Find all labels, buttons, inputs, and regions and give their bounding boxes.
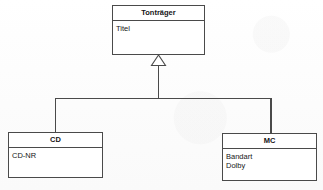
attribute-compartment-mc: Bandart Dolby <box>223 149 316 180</box>
attribute-item: Titel <box>116 24 204 33</box>
hollow-triangle-arrowhead <box>152 55 166 66</box>
attribute-item: CD-NR <box>12 151 102 160</box>
attribute-item: Bandart <box>226 152 316 161</box>
attribute-item: Dolby <box>226 161 316 170</box>
class-box-mc[interactable]: MC Bandart Dolby <box>222 133 317 181</box>
class-box-superclass[interactable]: Tonträger Titel <box>112 5 205 55</box>
class-box-cd[interactable]: CD CD-NR <box>8 132 103 178</box>
attribute-compartment-superclass: Titel <box>113 21 204 54</box>
class-name-cd: CD <box>9 133 102 148</box>
class-name-superclass: Tonträger <box>113 6 204 21</box>
class-name-mc: MC <box>223 134 316 149</box>
attribute-compartment-cd: CD-NR <box>9 148 102 177</box>
uml-class-diagram: Tonträger Titel CD CD-NR MC Bandart Dolb… <box>0 0 323 190</box>
